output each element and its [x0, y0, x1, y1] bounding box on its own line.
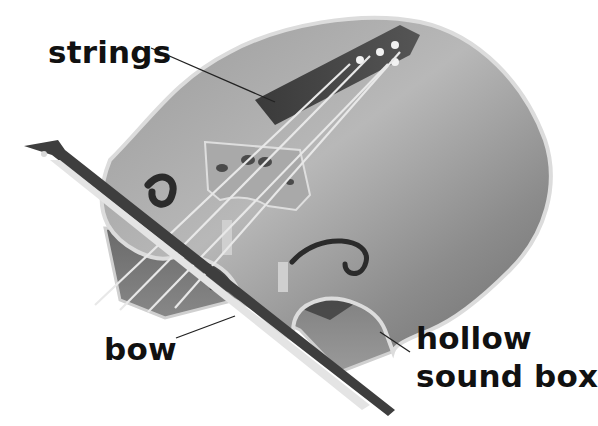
label-strings: strings [48, 34, 171, 70]
leader-bow [176, 316, 235, 338]
label-hollow: hollow [416, 320, 532, 356]
label-sound-box: sound box [416, 358, 598, 394]
bass-bar-post [278, 262, 288, 292]
label-bow: bow [104, 331, 177, 367]
